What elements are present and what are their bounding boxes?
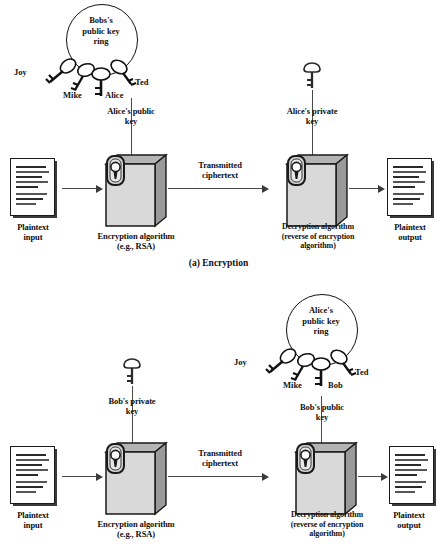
bob-private-key-icon: [121, 355, 143, 385]
arrow-decrypt-to-output: [349, 188, 380, 189]
arrow-decrypt-to-output-head: [378, 185, 385, 193]
arrow-decrypt-to-output: [358, 476, 383, 477]
plaintext-output-label: Plaintext output: [381, 510, 437, 530]
key-label-joy: Joy: [234, 357, 247, 367]
key-ring-keys-icon: [262, 294, 370, 398]
ciphertext-channel-label: Transmitted ciphertext: [182, 160, 258, 180]
key-label-bob: Bob: [328, 380, 343, 390]
plaintext-output-label: Plaintext output: [379, 222, 437, 242]
encryption-algorithm-label: Encryption algorithm (e.g., RSA): [70, 519, 202, 539]
key-ring-bob: Bobs's public key ring Joy: [42, 4, 150, 108]
doc-sheet: [389, 446, 434, 504]
encrypt-key-label: Bob's private key: [97, 396, 167, 416]
plaintext-output-doc: [389, 446, 436, 506]
doc-sheet: [387, 158, 432, 216]
key-label-mike: Mike: [63, 90, 82, 100]
doc-sheet: [10, 158, 55, 216]
decrypt-key-label: Bob's public key: [286, 402, 358, 422]
key-label-alice: Alice: [105, 90, 123, 100]
ciphertext-channel-arrow: [168, 476, 264, 477]
doc-sheet: [10, 446, 55, 504]
key-label-joy: Joy: [14, 67, 27, 77]
key-label-ted: Ted: [355, 367, 368, 377]
arrow-input-to-encrypt-head: [96, 473, 103, 481]
plaintext-input-label: Plaintext input: [2, 222, 64, 242]
arrow-input-to-encrypt: [62, 188, 98, 189]
decryption-algorithm-label: Decryption algorithm (reverse of encrypt…: [252, 222, 384, 251]
key-label-ted: Ted: [135, 77, 148, 87]
encrypt-key-label: Alice's public key: [96, 106, 166, 126]
arrow-decrypt-to-output-head: [381, 473, 388, 481]
ciphertext-channel-label: Transmitted ciphertext: [182, 448, 258, 468]
arrow-input-to-encrypt-head: [96, 185, 103, 193]
panel-decryption-authentication: Alice's public key ring Joy Mike Bob Ted: [0, 280, 437, 551]
key-ring-alice: Alice's public key ring Joy Mike Bob Ted: [262, 294, 370, 398]
decryption-algorithm-box: [287, 155, 349, 227]
plaintext-output-doc: [387, 158, 434, 218]
encryption-algorithm-box: [106, 155, 168, 227]
encryption-algorithm-box: [106, 443, 168, 515]
encryption-algorithm-label: Encryption algorithm (e.g., RSA): [70, 231, 202, 251]
arrow-input-to-encrypt: [62, 476, 98, 477]
key-label-mike: Mike: [283, 380, 302, 390]
plaintext-input-doc: [10, 158, 57, 218]
padlock-keyhole-icon: [106, 443, 125, 474]
decrypt-key-label: Alice's private key: [276, 106, 348, 126]
ciphertext-channel-arrowhead: [262, 185, 269, 193]
panel-a-caption: (a) Encryption: [0, 258, 437, 268]
padlock-keyhole-icon: [287, 155, 306, 186]
padlock-keyhole-icon: [106, 155, 125, 186]
decryption-algorithm-label: Decryption algorithm (reverse of encrypt…: [261, 510, 393, 539]
key-ring-keys-icon: [42, 4, 150, 108]
plaintext-input-doc: [10, 446, 57, 506]
ciphertext-channel-arrowhead: [262, 473, 269, 481]
decryption-algorithm-box: [296, 443, 358, 515]
alice-private-key-icon: [301, 59, 323, 89]
padlock-keyhole-icon: [296, 443, 315, 474]
plaintext-input-label: Plaintext input: [2, 510, 64, 530]
panel-encryption: Bobs's public key ring Joy: [0, 0, 437, 280]
ciphertext-channel-arrow: [168, 188, 264, 189]
